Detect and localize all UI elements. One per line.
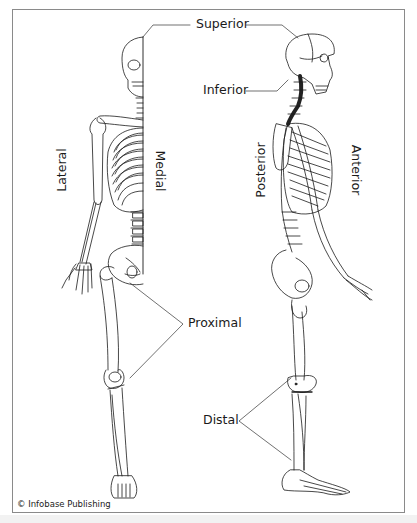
label-lateral: Lateral bbox=[56, 148, 69, 192]
distal-leader bbox=[239, 378, 291, 460]
copyright-credit: © Infobase Publishing bbox=[17, 499, 111, 509]
superior-leader-left bbox=[143, 25, 190, 37]
inferior-leader bbox=[246, 80, 288, 91]
label-proximal: Proximal bbox=[188, 317, 242, 330]
label-superior: Superior bbox=[196, 18, 249, 31]
proximal-leader bbox=[130, 283, 183, 378]
label-medial: Medial bbox=[154, 150, 167, 191]
side-skeleton bbox=[272, 34, 372, 495]
label-inferior: Inferior bbox=[203, 84, 248, 97]
skeleton-illustration bbox=[0, 0, 417, 523]
front-skeleton-half bbox=[62, 37, 143, 498]
label-posterior: Posterior bbox=[255, 142, 268, 197]
superior-leader-right bbox=[246, 25, 298, 38]
label-distal: Distal bbox=[203, 414, 239, 427]
label-anterior: Anterior bbox=[350, 145, 363, 195]
